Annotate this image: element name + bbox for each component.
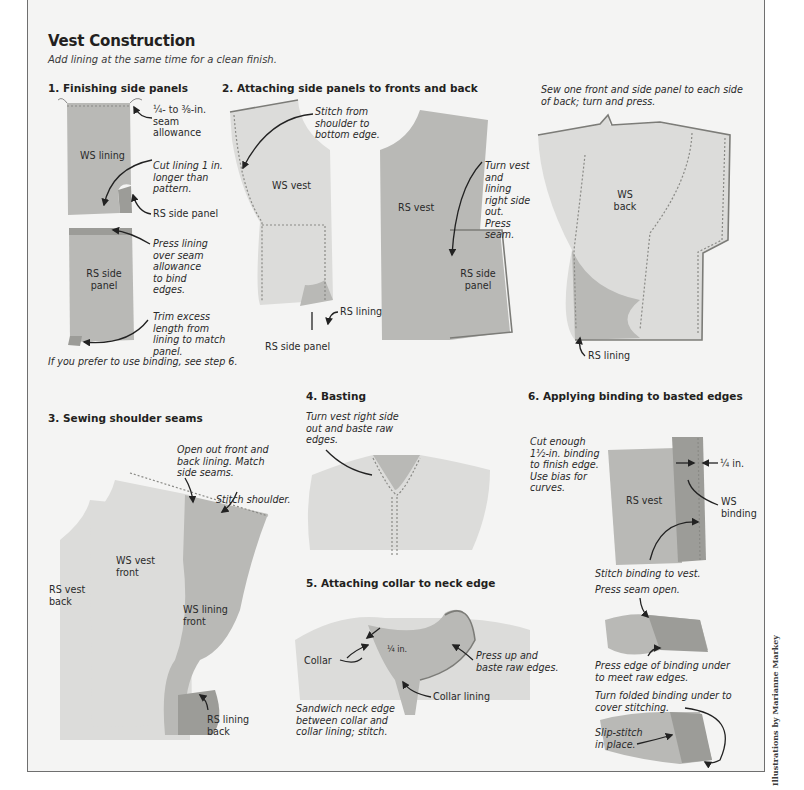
step6-cut-enough-note: Cut enough 1½-in. binding to finish edge… [530,436,602,494]
step1-rs-side-panel-label-2: RS side panel [84,268,124,291]
step6-stitch-binding-note: Stitch binding to vest. [595,568,701,580]
step3-open-out-note: Open out front and back lining. Match si… [177,444,282,479]
step4-turn-vest-note: Turn vest right side out and baste raw e… [306,411,401,446]
step1-seam-allowance-note: ¼- to ⅜-in. seam allowance [153,104,223,139]
step2-rs-lining-label: RS lining [340,306,382,318]
step2-rs-vest-label: RS vest [398,202,434,214]
illustration-credit: Illustrations by Marianne Markey [770,650,780,786]
step2-ws-back-label: WS back [610,189,640,212]
step5-press-up-note: Press up and baste raw edges. [476,650,561,673]
step3-heading: 3. Sewing shoulder seams [48,412,203,424]
step6-quarter-in-label: ¼ in. [720,458,744,470]
step6-press-seam-note: Press seam open. [595,584,680,596]
step2-rs-side-panel-label: RS side panel [265,341,330,353]
step3-ws-vest-front-label: WS vest front [116,555,166,578]
step2-ws-back [538,115,730,356]
step1-press-lining-note: Press lining over seam allowance to bind… [153,238,213,296]
step4-heading: 4. Basting [306,390,366,402]
step6-binding [600,437,725,764]
step5-quarter-in-label: ¼ in. [387,644,407,656]
step1-rs-side-panel-label: RS side panel [153,208,218,220]
page-subtitle: Add lining at the same time for a clean … [48,54,277,65]
step3-stitch-shoulder-note: Stitch shoulder. [216,494,290,506]
step6-press-edge-note: Press edge of binding under to meet raw … [595,660,735,683]
step2-ws-vest-label: WS vest [272,180,311,192]
step6-rs-vest-label: RS vest [626,495,662,507]
step2-turn-vest-note: Turn vest and lining right side out. Pre… [485,160,531,241]
step4-basting [308,450,490,555]
step2-rs-lining-label-2: RS lining [588,350,630,362]
step6-turn-folded-note: Turn folded binding under to cover stitc… [595,690,735,713]
step1-trim-note: Trim excess length from lining to match … [153,311,235,357]
step2-heading: 2. Attaching side panels to fronts and b… [222,82,478,94]
step6-ws-binding-label: WS binding [721,496,761,519]
step3-ws-lining-front-label: WS lining front [183,604,238,627]
step5-sandwich-note: Sandwich neck edge between collar and co… [296,703,398,738]
step5-collar-label: Collar [304,655,332,667]
step1-heading: 1. Finishing side panels [48,82,188,94]
step2-sew-one-note: Sew one front and side panel to each sid… [541,84,751,107]
step1-cut-lining-note: Cut lining 1 in. longer than pattern. [153,160,228,195]
step6-slip-stitch-note: Slip-stitch in place. [595,727,645,750]
step5-heading: 5. Attaching collar to neck edge [306,577,495,589]
step2-rs-side-panel-label-2: RS side panel [458,268,498,291]
step1-ws-lining-label: WS lining [80,150,125,162]
step1-footer-note: If you prefer to use binding, see step 6… [48,356,238,368]
step3-rs-vest-back-label: RS vest back [49,584,89,607]
step3-rs-lining-back-label: RS lining back [207,714,252,737]
step6-heading: 6. Applying binding to basted edges [528,390,743,402]
page-title: Vest Construction [48,32,195,50]
step2-stitch-from-note: Stitch from shoulder to bottom edge. [315,106,385,141]
step5-collar-lining-label: Collar lining [433,691,490,703]
